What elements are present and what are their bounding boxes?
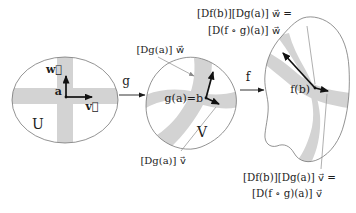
vector-dgv-label: [Dg(a)] v⃗: [140, 155, 185, 166]
point-fb-label: f(b): [290, 83, 310, 96]
equation-v-line1: [Df(b)][Dg(a)] v⃗ =: [243, 171, 336, 183]
point-b-label: g(a)=b: [165, 92, 203, 105]
diagram-canvas: w⃗ a v⃗ U g [Dg(a)] w⃗ g(a)=b V [Dg(a)] …: [0, 0, 356, 213]
point-a-label: a: [55, 85, 62, 98]
equation-v-line2: [D(f ∘ g)(a)] v⃗: [252, 187, 322, 199]
w-band-vertical-image: [277, 33, 320, 163]
equation-w-line2: [D(f ∘ g)(a)] w⃗: [208, 24, 280, 36]
chain-rule-diagram: w⃗ a v⃗ U g [Dg(a)] w⃗ g(a)=b V [Dg(a)] …: [0, 0, 356, 213]
domain-u: w⃗ a v⃗ U: [12, 57, 118, 143]
domain-u-set-label: U: [32, 116, 44, 132]
map-f-label: f: [246, 70, 252, 84]
vector-v-label: v⃗: [85, 100, 99, 113]
map-g-label: g: [122, 74, 130, 88]
vector-w-label: w⃗: [45, 63, 62, 76]
vector-dgw-label: [Dg(a)] w⃗: [136, 44, 183, 55]
domain-v-set-label: V: [196, 124, 208, 140]
map-f: f: [240, 70, 264, 90]
domain-v: [Dg(a)] w⃗ g(a)=b V [Dg(a)] v⃗: [136, 44, 238, 166]
map-g: g: [119, 74, 145, 95]
leader-bottom-equation: [321, 94, 327, 169]
equation-w-line1: [Df(b)][Dg(a)] w⃗ =: [197, 7, 292, 19]
